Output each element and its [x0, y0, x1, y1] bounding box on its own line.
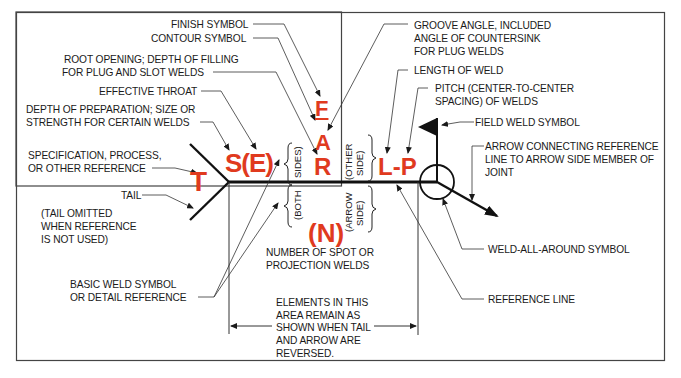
label-tail: TAIL	[121, 189, 141, 202]
label-other-1: (OTHER	[344, 144, 354, 180]
field-weld-flag	[418, 118, 437, 136]
arrow-line	[437, 182, 497, 216]
label-arrow-conn-3: JOINT	[485, 166, 514, 179]
label-groove-1: GROOVE ANGLE, INCLUDED	[414, 19, 551, 32]
label-elements-4: AND ARROW ARE	[276, 334, 361, 347]
label-pitch-1: PITCH (CENTER-TO-CENTER	[435, 82, 574, 95]
label-basic-weld-2: OR DETAIL REFERENCE	[70, 291, 186, 304]
symbol-s-e: S(E)	[225, 150, 273, 176]
symbol-a: A	[315, 132, 331, 154]
label-pitch-2: SPACING) OF WELDS	[435, 95, 538, 108]
label-field-weld: FIELD WELD SYMBOL	[475, 116, 580, 129]
symbol-l-p: L-P	[378, 155, 417, 179]
label-elements-5: REVERSED.	[276, 347, 334, 360]
label-weld-all-around: WELD-ALL-AROUND SYMBOL	[488, 243, 630, 256]
label-elements-3: SHOWN WHEN TAIL	[276, 321, 371, 334]
symbol-t: T	[190, 168, 207, 196]
label-depth-prep-2: STRENGTH FOR CERTAIN WELDS	[26, 116, 189, 129]
label-arrow-conn-2: LINE TO ARROW SIDE MEMBER OF	[485, 153, 654, 166]
label-tail-omit-1: (TAIL OMITTED	[41, 207, 112, 220]
label-arrow-conn-1: ARROW CONNECTING REFERENCE	[485, 140, 658, 153]
label-spec-2: OR OTHER REFERENCE	[28, 162, 146, 175]
label-depth-prep-1: DEPTH OF PREPARATION; SIZE OR	[26, 103, 195, 116]
label-number-spot-2: PROJECTION WELDS	[266, 259, 369, 272]
label-finish-symbol: FINISH SYMBOL	[171, 18, 248, 31]
label-arrow-2: SIDE)	[355, 201, 365, 226]
label-sides: SIDES)	[293, 146, 303, 178]
label-tail-omit-2: WHEN REFERENCE	[41, 220, 136, 233]
label-effective-throat: EFFECTIVE THROAT	[99, 85, 197, 98]
label-elements-1: ELEMENTS IN THIS	[276, 296, 368, 309]
label-groove-3: FOR PLUG WELDS	[414, 45, 504, 58]
label-reference-line: REFERENCE LINE	[488, 293, 575, 306]
label-length: LENGTH OF WELD	[414, 64, 503, 77]
symbol-r: R	[314, 155, 331, 179]
label-root-opening-2: FOR PLUG AND SLOT WELDS	[62, 66, 204, 79]
label-basic-weld-1: BASIC WELD SYMBOL	[70, 278, 176, 291]
label-groove-2: ANGLE OF COUNTERSINK	[414, 32, 541, 45]
symbol-f: F	[315, 98, 328, 120]
label-both: (BOTH	[293, 190, 303, 220]
label-number-spot-1: NUMBER OF SPOT OR	[266, 246, 374, 259]
label-spec-1: SPECIFICATION, PROCESS,	[28, 149, 161, 162]
label-contour-symbol: CONTOUR SYMBOL	[151, 32, 246, 45]
label-root-opening-1: ROOT OPENING; DEPTH OF FILLING	[64, 53, 239, 66]
symbol-n: (N)	[308, 220, 344, 246]
label-tail-omit-3: IS NOT USED)	[41, 233, 108, 246]
label-other-2: SIDE)	[355, 151, 365, 176]
label-arrow-1: (ARROW	[344, 192, 354, 232]
